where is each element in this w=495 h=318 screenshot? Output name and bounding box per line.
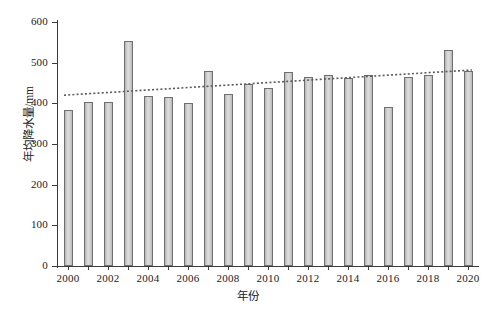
bar (464, 71, 473, 266)
bar (264, 88, 273, 266)
x-axis-tick (128, 266, 129, 270)
y-axis-tick-label-wrap: 600 (0, 16, 48, 27)
bar (304, 77, 313, 267)
x-axis-title: 年份 (0, 290, 495, 302)
y-axis-tick-label-wrap: 300 (0, 138, 48, 149)
x-axis-tick (428, 266, 429, 270)
y-axis-title: 年均降水量/mm (23, 69, 35, 179)
bar (424, 75, 433, 266)
x-axis-tick-label: 2020 (445, 272, 491, 284)
x-axis-tick (268, 266, 269, 270)
y-axis-tick-label: 100 (4, 219, 48, 230)
bar (204, 71, 213, 266)
y-axis-tick (52, 266, 58, 267)
bar (224, 94, 233, 266)
y-axis-tick-label: 300 (4, 138, 48, 149)
x-axis-tick (328, 266, 329, 270)
bar (404, 77, 413, 267)
bar (64, 110, 73, 266)
bar (284, 72, 293, 266)
bar (124, 41, 133, 266)
x-axis-tick (368, 266, 369, 270)
x-axis-tick (108, 266, 109, 270)
y-axis-tick-label: 400 (4, 97, 48, 108)
bar (244, 84, 253, 266)
y-axis-tick-label-wrap: 200 (0, 179, 48, 190)
x-axis-tick (468, 266, 469, 270)
x-axis-tick (348, 266, 349, 270)
bar (444, 50, 453, 266)
y-axis-tick-label-wrap: 500 (0, 57, 48, 68)
x-axis-tick (208, 266, 209, 270)
bar (384, 107, 393, 266)
y-axis-tick-label: 500 (4, 57, 48, 68)
x-axis-tick (168, 266, 169, 270)
x-axis-tick (188, 266, 189, 270)
bar (184, 103, 193, 266)
y-axis-tick-label: 0 (4, 260, 48, 271)
x-axis-tick (388, 266, 389, 270)
bar (104, 102, 113, 266)
bar (344, 78, 353, 266)
bar (164, 97, 173, 266)
y-axis-tick-label-wrap: 100 (0, 219, 48, 230)
x-axis-tick (408, 266, 409, 270)
x-axis-tick (148, 266, 149, 270)
x-axis-tick (248, 266, 249, 270)
x-axis-tick (448, 266, 449, 270)
y-axis-tick-label-wrap: 400 (0, 97, 48, 108)
bar (84, 102, 93, 266)
x-axis-tick (288, 266, 289, 270)
y-axis-tick-label: 600 (4, 16, 48, 27)
x-axis-tick (308, 266, 309, 270)
y-axis-tick-label-wrap: 0 (0, 260, 48, 271)
bar (324, 75, 333, 266)
x-axis-tick (68, 266, 69, 270)
y-axis-tick-label: 200 (4, 179, 48, 190)
bar (144, 96, 153, 266)
plot-area (58, 22, 478, 266)
x-axis-tick (228, 266, 229, 270)
x-axis-tick (88, 266, 89, 270)
precipitation-bar-chart: 年均降水量/mm 0100200300400500600 20002002200… (0, 0, 495, 318)
bar (364, 75, 373, 266)
